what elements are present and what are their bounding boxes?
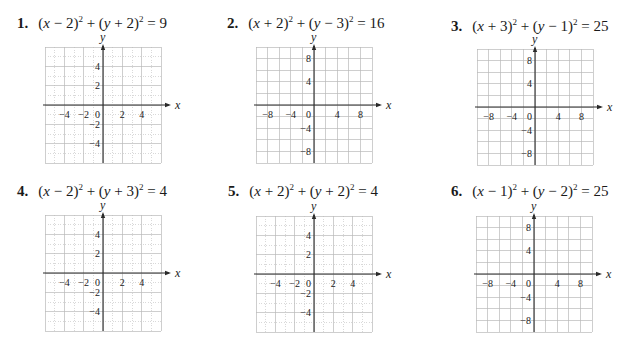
x-tick-label: 4 <box>555 278 560 289</box>
coordinate-grid-6[interactable]: xy−8−404884−4−8 <box>0 0 632 353</box>
x-tick-label: −8 <box>482 278 493 289</box>
y-tick-label: 4 <box>526 245 531 256</box>
x-axis-label: x <box>605 267 612 281</box>
x-tick-label: 8 <box>578 278 583 289</box>
y-tick-label: −4 <box>520 292 531 303</box>
axes <box>474 213 602 332</box>
x-tick-label: 0 <box>526 278 531 289</box>
x-tick-label: −4 <box>505 278 516 289</box>
x-axis-arrow-icon <box>596 272 602 276</box>
y-tick-label: −8 <box>520 315 531 326</box>
y-axis-label: y <box>530 199 537 213</box>
y-tick-label: 8 <box>526 222 531 233</box>
